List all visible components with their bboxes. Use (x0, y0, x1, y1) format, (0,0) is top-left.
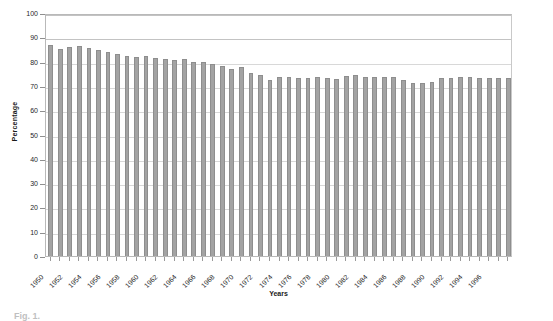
x-axis-tick-label: 1958 (105, 273, 121, 289)
bar (401, 80, 406, 256)
y-axis-tick-label: 80 (12, 59, 38, 66)
bar (48, 45, 53, 256)
x-axis-tick-mark (298, 257, 299, 261)
x-axis-tick-mark (288, 257, 289, 261)
y-axis-tick-label: 100 (12, 10, 38, 17)
plot-area (45, 14, 512, 257)
bar (77, 46, 82, 256)
x-axis-tick-label: 1976 (276, 273, 292, 289)
y-axis-tick-mark (40, 233, 45, 234)
x-axis-tick-label: 1964 (162, 273, 178, 289)
x-axis-tick-mark (307, 257, 308, 261)
x-axis-tick-label: 1986 (372, 273, 388, 289)
x-axis-tick-mark (460, 257, 461, 261)
x-axis-tick-label: 1956 (86, 273, 102, 289)
bar (372, 77, 377, 256)
bar (144, 56, 149, 256)
bar (249, 73, 254, 256)
y-axis-tick-mark (40, 136, 45, 137)
bar (458, 77, 463, 256)
bar (115, 54, 120, 256)
bar (277, 77, 282, 256)
x-axis-title: Years (45, 290, 512, 297)
x-axis-tick-mark (240, 257, 241, 261)
bar (325, 78, 330, 256)
y-axis-tick-mark (40, 111, 45, 112)
figure-caption: Fig. 1. (14, 311, 40, 321)
x-axis-tick-mark (336, 257, 337, 261)
x-axis-tick-mark (78, 257, 79, 261)
y-axis-tick-mark (40, 14, 45, 15)
bar (487, 78, 492, 256)
y-axis-tick-mark (40, 208, 45, 209)
bar (449, 78, 454, 256)
bar (125, 56, 130, 256)
bar (58, 49, 63, 256)
x-axis-tick-mark (136, 257, 137, 261)
x-axis-tick-label: 1972 (238, 273, 254, 289)
x-axis-tick-label: 1968 (200, 273, 216, 289)
bar (306, 78, 311, 256)
x-axis-tick-label: 1970 (219, 273, 235, 289)
x-axis-tick-label: 1962 (143, 273, 159, 289)
bar (191, 62, 196, 256)
x-axis-tick-mark (126, 257, 127, 261)
bar (363, 77, 368, 256)
y-axis-tick-label: 40 (12, 156, 38, 163)
bar (268, 80, 273, 256)
bar (334, 79, 339, 256)
x-axis-tick-mark (412, 257, 413, 261)
x-axis-tick-mark (393, 257, 394, 261)
bar (391, 77, 396, 256)
x-axis-tick-label: 1988 (391, 273, 407, 289)
x-axis-tick-mark (383, 257, 384, 261)
figure-bar-chart: Percentage 1009080706050403020100 195019… (0, 0, 553, 321)
bar (182, 59, 187, 256)
bar (468, 77, 473, 256)
bar (430, 82, 435, 256)
bar (353, 75, 358, 256)
x-axis-tick-mark (326, 257, 327, 261)
x-axis-tick-label: 1992 (429, 273, 445, 289)
x-axis-tick-mark (450, 257, 451, 261)
x-axis-tick-label: 1984 (353, 273, 369, 289)
x-axis-tick-label: 1960 (124, 273, 140, 289)
y-axis-tick-label: 10 (12, 229, 38, 236)
bar (315, 77, 320, 256)
x-axis-tick-mark (421, 257, 422, 261)
x-axis-tick-mark (221, 257, 222, 261)
x-axis-tick-mark (441, 257, 442, 261)
bar-series (46, 15, 511, 256)
y-axis-tick-mark (40, 63, 45, 64)
bar (239, 67, 244, 256)
x-axis-tick-mark (88, 257, 89, 261)
x-axis-tick-mark (183, 257, 184, 261)
bar (172, 60, 177, 256)
y-axis-tick-label: 0 (12, 253, 38, 260)
x-axis-tick-mark (431, 257, 432, 261)
bar (87, 48, 92, 256)
x-axis-tick-mark (345, 257, 346, 261)
y-axis-tick-label: 20 (12, 204, 38, 211)
x-axis-tick-mark (364, 257, 365, 261)
x-axis-tick-mark (97, 257, 98, 261)
y-axis-tick-label: 50 (12, 132, 38, 139)
bar (96, 50, 101, 256)
bar (287, 77, 292, 256)
x-axis-tick-mark (212, 257, 213, 261)
y-axis-tick-label: 30 (12, 180, 38, 187)
bar (229, 69, 234, 256)
bar (506, 78, 511, 256)
x-axis-tick-mark (231, 257, 232, 261)
x-axis-tick-mark (355, 257, 356, 261)
bar (134, 57, 139, 256)
bar (201, 62, 206, 256)
x-axis-tick-mark (174, 257, 175, 261)
bar (477, 78, 482, 256)
x-axis-ticks: 1950195219541956195819601962196419661968… (45, 257, 512, 307)
bar (210, 64, 215, 256)
y-axis-title: Percentage (11, 82, 18, 162)
x-axis-tick-mark (259, 257, 260, 261)
x-axis-tick-label: 1952 (48, 273, 64, 289)
bar (439, 78, 444, 256)
